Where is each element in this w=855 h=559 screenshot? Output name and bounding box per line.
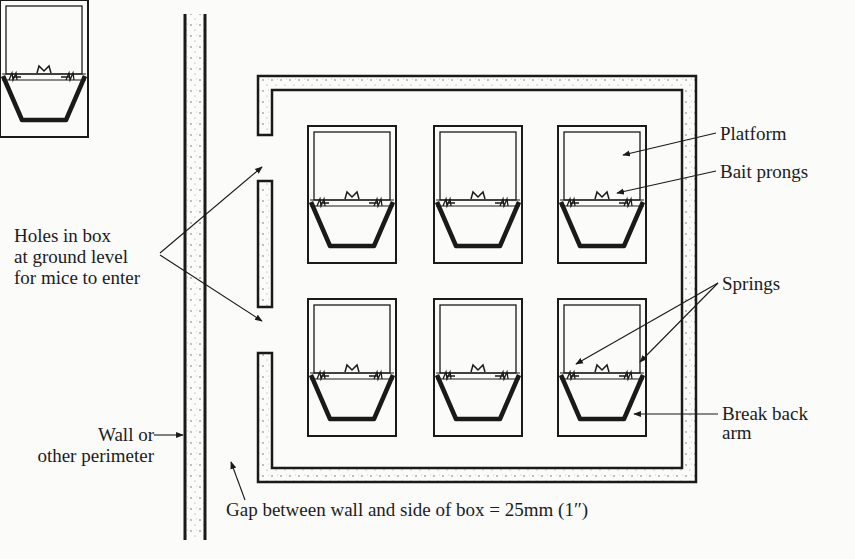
- gap-label: Gap between wall and side of box = 25mm …: [226, 499, 588, 520]
- break-back-arm-line2: arm: [722, 423, 808, 442]
- break-back-arm-line1: Break back: [722, 404, 808, 423]
- break-back-arm-label: Break back arm: [722, 404, 808, 442]
- holes-label: Holes in box at ground level for mice to…: [14, 225, 140, 288]
- holes-label-line3: for mice to enter: [14, 267, 140, 288]
- bait-prongs-label: Bait prongs: [720, 161, 808, 182]
- holes-label-line2: at ground level: [14, 246, 140, 267]
- wall-label-line1: Wall or: [22, 424, 154, 445]
- break-back-trap: [0, 0, 88, 137]
- platform-label: Platform: [720, 123, 787, 144]
- leader-lines: [154, 133, 718, 500]
- springs-label: Springs: [722, 273, 780, 294]
- holes-label-line1: Holes in box: [14, 225, 140, 246]
- wall-label: Wall or other perimeter: [22, 424, 154, 466]
- wall-label-line2: other perimeter: [22, 445, 154, 466]
- traps: [0, 0, 646, 436]
